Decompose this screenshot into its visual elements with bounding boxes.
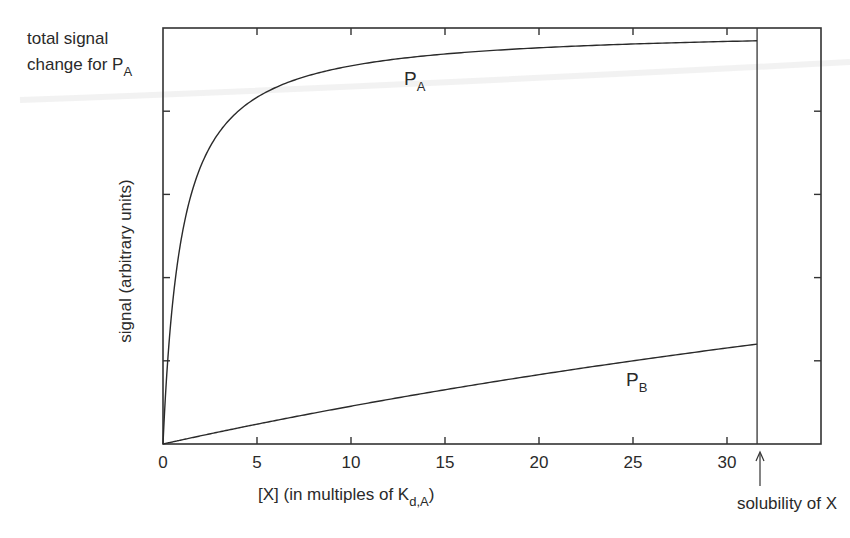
binding-curve-chart: 051015202530 solubility of X PA PB total…: [0, 0, 850, 538]
x-tick-label: 5: [252, 453, 261, 472]
x-tick-label: 0: [158, 453, 167, 472]
scan-artifact: [20, 62, 850, 100]
x-tick-label: 10: [342, 453, 361, 472]
series-pa-line: [163, 41, 757, 444]
x-tick-label: 20: [530, 453, 549, 472]
x-tick-label: 30: [718, 453, 737, 472]
x-tick-label: 15: [436, 453, 455, 472]
series-pb-label: PB: [626, 369, 647, 395]
x-tick-label: 25: [624, 453, 643, 472]
x-axis-tick-labels: 051015202530: [158, 453, 736, 472]
total-signal-label-line1: total signal: [27, 29, 108, 48]
series-pa-label: PA: [404, 68, 426, 94]
y-axis-label: signal (arbitrary units): [116, 179, 135, 342]
chart: 051015202530 solubility of X PA PB total…: [0, 0, 850, 538]
solubility-label: solubility of X: [737, 494, 837, 513]
y-axis-ticks: [163, 111, 821, 361]
series-pb-line: [163, 344, 757, 444]
x-axis-label: [X] (in multiples of Kd,A): [258, 485, 434, 509]
solubility-arrow-icon: [756, 452, 764, 486]
total-signal-label-line2: change for PA: [27, 55, 132, 79]
